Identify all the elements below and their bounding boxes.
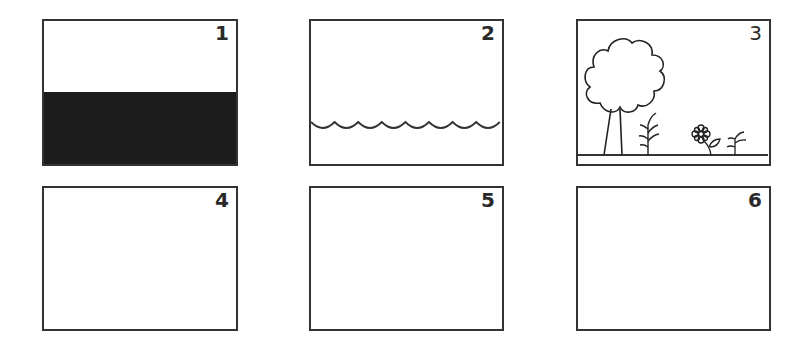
grass-icon [639, 113, 659, 155]
wave-line-icon [311, 21, 501, 163]
panel-2: 2 [309, 19, 504, 166]
landscape-scene [578, 21, 768, 163]
grass-icon [727, 132, 746, 155]
panel-number: 5 [481, 190, 495, 210]
panel-4: 4 [42, 186, 238, 331]
panel-1: 1 [42, 19, 238, 166]
flower-icon [692, 125, 720, 155]
panel-5: 5 [309, 186, 504, 331]
panel-6: 6 [576, 186, 771, 331]
dark-ground-fill [44, 92, 236, 164]
panel-number: 6 [748, 190, 762, 210]
panel-number: 3 [749, 23, 762, 43]
panel-number: 1 [215, 23, 229, 43]
panel-number: 2 [481, 23, 495, 43]
panel-number: 4 [215, 190, 229, 210]
panel-3: 3 [576, 19, 771, 166]
